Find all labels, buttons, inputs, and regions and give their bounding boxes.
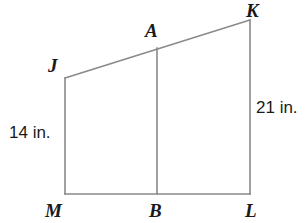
measurement-label-left: 14 in. (9, 124, 51, 141)
vertex-label-m: M (45, 201, 62, 220)
geometry-figure: K A J M B L 14 in. 21 in. (0, 0, 306, 223)
vertex-label-k: K (246, 1, 259, 20)
vertex-label-a: A (145, 21, 158, 40)
vertex-label-b: B (149, 201, 162, 220)
measurement-label-right: 21 in. (256, 99, 298, 116)
vertex-label-j: J (48, 56, 58, 75)
vertex-label-l: L (245, 201, 257, 220)
